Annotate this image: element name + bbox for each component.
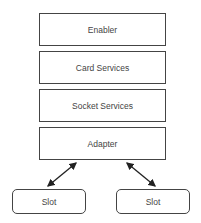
slot-label: Slot [146, 197, 161, 207]
bidirectional-arrow-left [48, 163, 76, 186]
slot-label: Slot [42, 197, 57, 207]
slot-left: Slot [12, 189, 86, 214]
bidirectional-arrow-right [127, 163, 155, 186]
slot-right: Slot [116, 189, 190, 214]
